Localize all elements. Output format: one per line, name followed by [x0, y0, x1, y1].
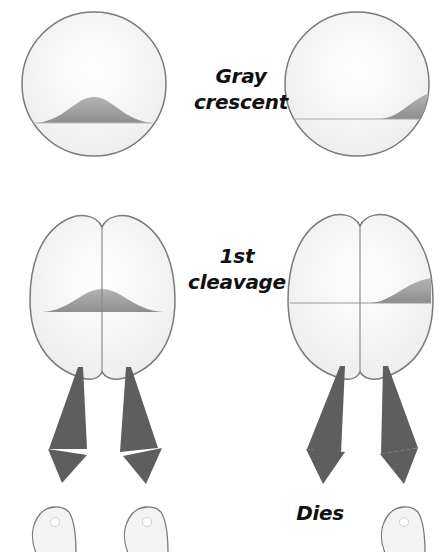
gray-crescent-label: Gray crescent [188, 63, 294, 115]
two-cell-embryo-right [288, 215, 433, 380]
tadpole-left-1 [33, 507, 76, 552]
embryo-cleavage-diagram: Gray crescent 1st cleavage Dies [0, 0, 444, 552]
two-cell-embryo-left [30, 216, 175, 380]
gray-crescent-label-line1: Gray [188, 63, 294, 89]
tadpole-right [382, 507, 425, 552]
first-cleavage-label-line1: 1st [182, 243, 292, 269]
arrow-left-2 [120, 367, 162, 484]
zygote-left [22, 12, 166, 156]
first-cleavage-label-line2: cleavage [182, 269, 292, 295]
zygote-right [285, 12, 430, 156]
arrow-left-1 [48, 367, 87, 483]
dies-label: Dies [290, 500, 350, 526]
first-cleavage-label: 1st cleavage [182, 243, 292, 295]
gray-crescent-label-line2: crescent [188, 89, 294, 115]
arrow-right-1 [306, 366, 345, 484]
arrow-right-2 [380, 366, 418, 484]
dies-label-text: Dies [290, 500, 350, 526]
tadpole-left-2 [125, 507, 168, 552]
